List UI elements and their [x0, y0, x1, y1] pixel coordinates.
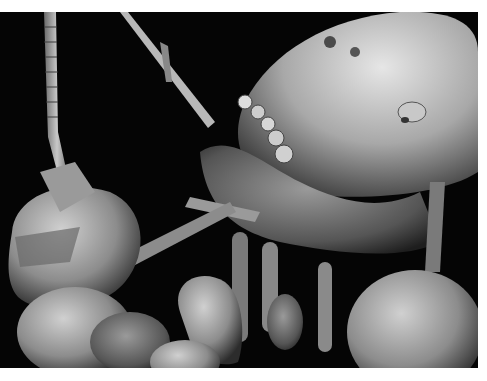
bottom-right-abdomen: [347, 270, 478, 368]
left-insect-head: [9, 162, 141, 309]
left-antenna: [44, 12, 70, 190]
insect-illustration: [0, 12, 478, 368]
micrograph-image: [0, 12, 478, 368]
